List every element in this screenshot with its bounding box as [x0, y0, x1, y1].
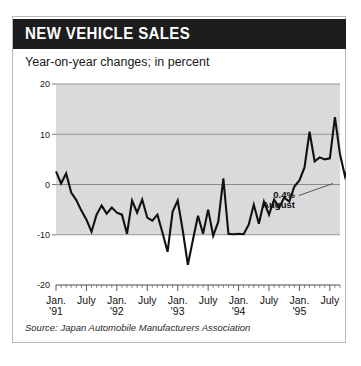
- y-tick-label-10: 10: [40, 130, 50, 140]
- chart-source-note: Source: Japan Automobile Manufacturers A…: [25, 322, 250, 333]
- x-tick-year-4: '93: [171, 305, 185, 315]
- chart-subtitle: Year-on-year changes; in percent: [25, 55, 209, 69]
- x-tick-year-0: '91: [49, 305, 63, 315]
- y-tick-label-20: 20: [40, 79, 50, 89]
- y-tick-label-0: 0: [45, 180, 50, 190]
- y-tick-label--10: -10: [37, 230, 50, 240]
- x-tick-label-5: July: [199, 294, 218, 306]
- x-tick-year-8: '95: [293, 305, 307, 315]
- x-tick-label-1: July: [77, 294, 96, 306]
- chart-plot-area: 20100-10-20Jan.'91JulyJan.'92JulyJan.'93…: [13, 75, 346, 315]
- x-tick-label-7: July: [260, 294, 279, 306]
- chart-title-bar: NEW VEHICLE SALES: [13, 19, 346, 49]
- x-tick-year-2: '92: [110, 305, 124, 315]
- chart-card: NEW VEHICLE SALES Year-on-year changes; …: [12, 16, 346, 343]
- y-tick-label--20: -20: [37, 280, 50, 290]
- x-tick-label-3: July: [138, 294, 157, 306]
- annotation-label: August: [262, 199, 296, 210]
- line-chart-svg: 20100-10-20Jan.'91JulyJan.'92JulyJan.'93…: [13, 75, 346, 315]
- x-tick-label-9: July: [321, 294, 340, 306]
- page-title: NEW VEHICLE SALES: [25, 25, 190, 43]
- x-tick-year-6: '94: [232, 305, 246, 315]
